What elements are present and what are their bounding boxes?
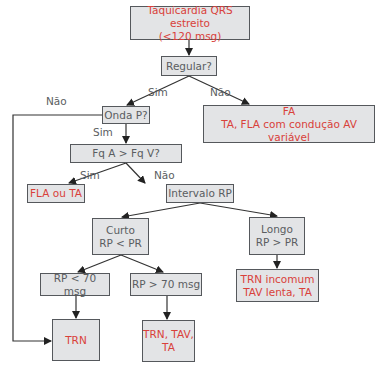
fq-label: Fq A > Fq V? <box>92 147 160 160</box>
rp-gt70-label: RP > 70 msg <box>132 278 200 291</box>
intervalo-rp-node: Intervalo RP <box>166 184 234 203</box>
fa-outcome: FA TA, FLA com condução AV variável <box>203 105 375 143</box>
fa-line2: TA, FLA com condução AV variável <box>204 118 374 144</box>
intervalo-label: Intervalo RP <box>168 187 232 200</box>
start-line2: (<120 msg) <box>159 30 222 43</box>
rp-gt70-node: RP > 70 msg <box>130 273 202 296</box>
trn-incomum-outcome: TRN incomum TAV lenta, TA <box>236 269 319 302</box>
curto-line1: Curto <box>106 224 135 237</box>
regular-label: Regular? <box>166 60 212 73</box>
trn-label: TRN <box>65 334 87 347</box>
fla-ta-label: FLA ou TA <box>30 187 82 200</box>
curto-line2: RP < PR <box>99 237 142 250</box>
edge-label-onda-sim: Sim <box>93 126 113 138</box>
trn-tav-ta-outcome: TRN, TAV, TA <box>142 320 195 362</box>
trn-tav-ta-line1: TRN, TAV, <box>143 328 194 341</box>
edge-label-onda-nao: Não <box>46 95 67 107</box>
longo-line1: Longo <box>261 223 293 236</box>
fla-ta-outcome: FLA ou TA <box>27 184 85 203</box>
trn-outcome: TRN <box>52 319 100 361</box>
curto-node: Curto RP < PR <box>92 218 149 255</box>
onda-p-question: Onda P? <box>102 106 150 124</box>
regular-question: Regular? <box>161 56 217 76</box>
start-line1: Taquicardia QRS estreito <box>131 4 249 30</box>
onda-p-label: Onda P? <box>104 109 147 122</box>
edge-label-regular-sim: Sim <box>148 86 168 98</box>
trn-incomum-line2: TAV lenta, TA <box>243 286 312 299</box>
longo-line2: RP > PR <box>256 236 299 249</box>
trn-incomum-line1: TRN incomum <box>241 273 315 286</box>
fq-question: Fq A > Fq V? <box>70 144 182 163</box>
rp-lt70-label: RP < 70 msg <box>41 272 109 298</box>
fa-line1: FA <box>283 105 295 118</box>
rp-lt70-node: RP < 70 msg <box>40 273 110 296</box>
edge-label-fq-nao: Não <box>154 169 175 181</box>
trn-tav-ta-line2: TA <box>162 341 175 354</box>
start-node: Taquicardia QRS estreito (<120 msg) <box>130 6 250 40</box>
longo-node: Longo RP > PR <box>249 217 305 255</box>
edge-label-regular-nao: Não <box>210 86 231 98</box>
edge-label-fq-sim: Sim <box>80 169 100 181</box>
